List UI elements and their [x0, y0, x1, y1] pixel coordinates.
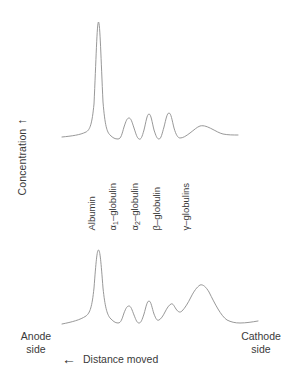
fraction-label-alpha2-subscript: 2	[133, 221, 140, 225]
fraction-label-alpha1-greek: α	[107, 225, 118, 231]
fraction-label-gamma-suffix: –globulins	[180, 182, 191, 225]
anode-side-line-1: Anode	[8, 330, 64, 343]
fraction-label-albumin-text: Albumin	[86, 196, 97, 230]
fraction-label-alpha1: α1–globulin	[108, 183, 118, 230]
distance-moved-text: Distance moved	[83, 353, 158, 365]
fraction-label-alpha1-suffix: –globulin	[107, 183, 118, 221]
distance-moved-label: ← Distance moved	[62, 353, 158, 365]
anode-side-label: Anode side	[8, 330, 64, 356]
fraction-label-gamma-greek: γ	[180, 225, 191, 230]
anode-side-line-2: side	[8, 343, 64, 356]
left-arrow-icon: ←	[62, 354, 76, 364]
fraction-label-albumin: Albumin	[87, 196, 97, 230]
figure-canvas: Concentration↑ Albumin α1–globulin α2–gl…	[0, 0, 297, 373]
fraction-label-beta: β–globulin	[152, 186, 162, 230]
fraction-label-gamma: γ–globulins	[181, 182, 191, 230]
fraction-label-beta-suffix: –globulin	[151, 186, 162, 224]
fraction-label-alpha2-suffix: –globulin	[129, 183, 140, 221]
fraction-label-alpha1-subscript: 1	[111, 221, 118, 225]
fraction-label-alpha2: α2–globulin	[130, 183, 140, 230]
cathode-side-line-2: side	[231, 343, 291, 356]
fraction-label-alpha2-greek: α	[129, 225, 140, 231]
fraction-label-group: Albumin α1–globulin α2–globulin β–globul…	[0, 0, 297, 373]
cathode-side-line-1: Cathode	[231, 330, 291, 343]
cathode-side-label: Cathode side	[231, 330, 291, 356]
